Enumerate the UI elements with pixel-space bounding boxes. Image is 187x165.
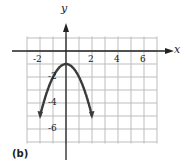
y-tick-label: -2 — [48, 71, 57, 81]
y-tick-label: -6 — [48, 123, 57, 133]
arrow-head-icon — [89, 111, 95, 119]
y-axis-arrow-icon — [63, 23, 69, 32]
arrow-head-icon — [38, 111, 44, 119]
x-axis-label: x — [174, 43, 180, 56]
x-axis-arrow-icon — [165, 48, 174, 54]
part-label: (b) — [12, 148, 28, 159]
x-tick-label: 6 — [140, 54, 146, 64]
y-tick-label: -4 — [48, 97, 57, 107]
x-tick-label: 4 — [114, 54, 120, 64]
x-tick-label: 2 — [88, 54, 94, 64]
y-axis-label: y — [61, 2, 67, 15]
x-tick-label: -2 — [33, 54, 42, 64]
graph-canvas — [0, 0, 187, 165]
